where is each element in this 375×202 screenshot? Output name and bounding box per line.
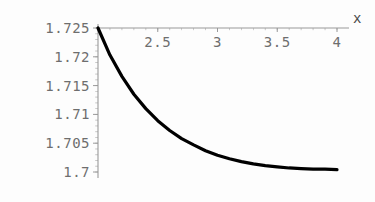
x-tick-label: 4 [307, 35, 367, 49]
plot-figure: 2.533.541.7251.721.7151.711.7051.7 x [0, 0, 375, 202]
x-axis-label: x [353, 11, 361, 25]
y-tick-label: 1.71 [2, 107, 90, 121]
x-tick-label: 3 [188, 35, 248, 49]
x-tick-label: 2.5 [128, 35, 188, 49]
y-tick-label: 1.725 [2, 21, 90, 35]
y-tick-label: 1.705 [2, 136, 90, 150]
y-tick-label: 1.715 [2, 79, 90, 93]
y-tick-label: 1.7 [2, 165, 90, 179]
y-tick-label: 1.72 [2, 50, 90, 64]
x-tick-label: 3.5 [247, 35, 307, 49]
